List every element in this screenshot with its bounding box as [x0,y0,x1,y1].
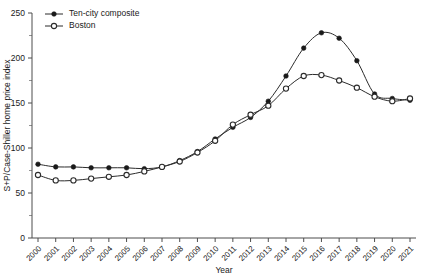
x-tick-label: 2014 [272,244,291,263]
x-tick-label: 2017 [326,244,345,263]
x-tick-label: 2000 [24,244,43,263]
data-point-marker [177,159,182,164]
x-tick-label: 2007 [148,244,167,263]
data-point-marker [106,174,111,179]
legend-marker [51,23,56,28]
x-tick-label: 2019 [361,244,380,263]
data-point-marker [284,74,289,79]
y-tick-label: 50 [16,188,26,198]
x-tick-label: 2016 [308,244,327,263]
legend-label: Ten-city composite [69,8,140,18]
data-point-marker [355,58,360,63]
x-tick-label: 2010 [202,244,221,263]
y-axis-ticks: 050100150200250 [11,8,32,243]
series-line-ten-city-composite [38,32,410,168]
x-tick-label: 2020 [379,244,398,263]
data-point-marker [301,73,306,78]
data-point-marker [301,46,306,51]
data-point-marker [337,78,342,83]
data-point-marker [36,162,41,167]
y-tick-label: 0 [20,233,25,243]
chart-legend: Ten-city compositeBoston [45,8,140,30]
data-point-marker [319,73,324,78]
x-tick-label: 2015 [290,244,309,263]
data-point-marker [266,103,271,108]
x-tick-label: 2001 [42,244,61,263]
x-tick-label: 2021 [396,244,415,263]
data-point-marker [337,36,342,41]
x-axis-ticks: 2000200120022003200420052006200720082009… [24,238,415,263]
series-line-boston [38,74,410,180]
y-tick-label: 150 [11,98,25,108]
x-tick-label: 2008 [166,244,185,263]
data-point-marker [53,165,58,170]
data-point-marker [372,94,377,99]
data-point-marker [213,138,218,143]
data-point-marker [248,112,253,117]
series-layer [35,31,412,183]
x-tick-label: 2012 [237,244,256,263]
x-tick-label: 2011 [220,244,239,263]
data-point-marker [89,166,94,171]
legend-label: Boston [69,20,96,30]
data-point-marker [124,172,129,177]
x-axis-title: Year [215,265,232,275]
data-point-marker [142,169,147,174]
data-point-marker [283,86,288,91]
y-axis-title: S+P/Case-Shiller home price index [2,59,12,192]
y-tick-label: 200 [11,53,25,63]
data-point-marker [230,122,235,127]
data-point-marker [390,99,395,104]
data-point-marker [35,172,40,177]
data-point-marker [319,31,324,36]
y-tick-label: 250 [11,8,25,18]
data-point-marker [354,85,359,90]
data-point-marker [195,150,200,155]
line-chart: 050100150200250 200020012002200320042005… [0,0,422,278]
x-tick-label: 2002 [60,244,79,263]
x-tick-label: 2013 [255,244,274,263]
data-point-marker [159,164,164,169]
data-point-marker [89,176,94,181]
x-tick-label: 2009 [184,244,203,263]
data-point-marker [71,165,76,170]
data-point-marker [124,166,129,171]
data-point-marker [71,178,76,183]
x-tick-label: 2006 [131,244,150,263]
data-point-marker [53,178,58,183]
data-point-marker [107,166,112,171]
x-tick-label: 2018 [343,244,362,263]
data-point-marker [407,96,412,101]
x-tick-label: 2005 [113,244,132,263]
y-tick-label: 100 [11,143,25,153]
x-tick-label: 2003 [78,244,97,263]
chart-figure: 050100150200250 200020012002200320042005… [0,0,422,278]
legend-marker [52,12,57,17]
x-tick-label: 2004 [95,244,114,263]
